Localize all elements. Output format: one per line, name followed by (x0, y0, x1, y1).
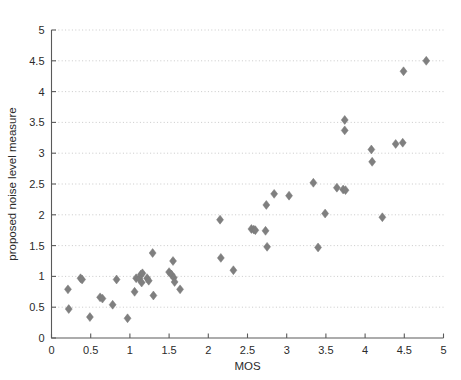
y-tick-label-10: 5 (38, 24, 44, 36)
data-point (322, 209, 329, 218)
data-point (262, 226, 269, 235)
data-point (341, 126, 348, 135)
data-point (315, 243, 322, 252)
data-point (263, 200, 270, 209)
data-point (333, 183, 340, 192)
x-tick-label-7: 3.5 (318, 344, 333, 356)
y-tick-label-7: 3.5 (29, 116, 44, 128)
data-point (113, 275, 120, 284)
data-point (379, 213, 386, 222)
y-tick-marks-group (52, 30, 57, 338)
y-tick-labels-group: 00.511.522.533.544.55 (29, 24, 44, 344)
data-point (109, 300, 116, 309)
data-point (423, 56, 430, 65)
x-tick-label-0: 0 (48, 344, 54, 356)
data-point (64, 285, 71, 294)
data-point (177, 285, 184, 294)
data-point (150, 291, 157, 300)
data-point (65, 305, 72, 314)
data-point (230, 266, 237, 275)
x-axis-title: MOS (234, 360, 261, 372)
x-tick-labels-group: 00.511.522.533.544.55 (48, 344, 446, 356)
y-tick-label-3: 1.5 (29, 240, 44, 252)
x-tick-label-8: 4 (362, 344, 368, 356)
x-tick-label-3: 1.5 (161, 344, 176, 356)
x-tick-label-5: 2.5 (240, 344, 255, 356)
y-tick-label-0: 0 (38, 332, 44, 344)
gridlines-group (52, 30, 444, 307)
data-point (400, 67, 407, 76)
data-point (264, 242, 271, 251)
data-point (399, 138, 406, 147)
x-tick-label-6: 3 (284, 344, 290, 356)
data-point (149, 249, 156, 258)
x-tick-label-1: 0.5 (83, 344, 98, 356)
x-tick-marks-group (52, 334, 444, 339)
x-tick-label-2: 1 (127, 344, 133, 356)
data-point (170, 257, 177, 266)
data-point (217, 253, 224, 262)
data-point (369, 157, 376, 166)
y-axis-title: proposed noise level measure (6, 107, 18, 260)
data-point (131, 287, 138, 296)
y-tick-label-1: 0.5 (29, 301, 44, 313)
x-tick-label-4: 2 (205, 344, 211, 356)
data-point (124, 314, 131, 323)
data-point (286, 191, 293, 200)
y-tick-label-4: 2 (38, 209, 44, 221)
y-tick-label-9: 4.5 (29, 55, 44, 67)
data-point (86, 313, 93, 322)
x-tick-label-9: 4.5 (397, 344, 412, 356)
scatter-plot-figure: 00.511.522.533.544.55 00.511.522.533.544… (0, 0, 461, 380)
data-point (217, 215, 224, 224)
data-point (341, 115, 348, 124)
y-tick-label-8: 4 (38, 86, 44, 98)
data-points-group (64, 56, 429, 322)
data-point (368, 145, 375, 154)
data-point (271, 189, 278, 198)
chart-canvas: 00.511.522.533.544.55 00.511.522.533.544… (0, 0, 461, 380)
y-tick-label-5: 2.5 (29, 178, 44, 190)
y-tick-label-2: 1 (38, 270, 44, 282)
data-point (392, 140, 399, 149)
data-point (310, 178, 317, 187)
x-tick-label-10: 5 (440, 344, 446, 356)
y-tick-label-6: 3 (38, 147, 44, 159)
